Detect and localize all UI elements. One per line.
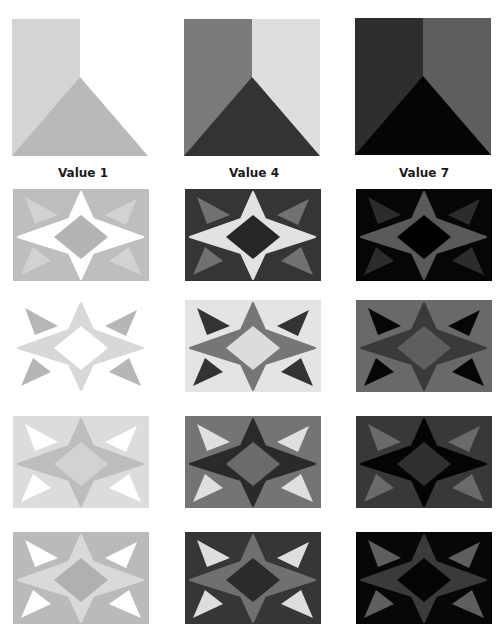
star-panel-r4-value-1	[13, 532, 149, 624]
value-square-1-svg	[12, 19, 148, 156]
value-label-7: Value 7	[354, 166, 494, 180]
star-panel-r4-value-7	[356, 532, 492, 624]
value-label-1: Value 1	[13, 166, 153, 180]
star-panel-svg	[356, 189, 492, 281]
value-square-7-svg	[355, 18, 491, 155]
star-panel-svg	[13, 416, 149, 508]
value-square-4	[184, 19, 320, 156]
star-panel-svg	[356, 532, 492, 624]
star-panel-r1-value-4	[185, 189, 321, 281]
value-square-1	[12, 19, 148, 156]
value-label-4: Value 4	[184, 166, 324, 180]
value-square-4-svg	[184, 19, 320, 156]
star-panel-svg	[356, 416, 492, 508]
star-panel-svg	[13, 189, 149, 281]
star-panel-r3-value-4	[185, 416, 321, 508]
star-panel-svg	[13, 532, 149, 624]
star-panel-r4-value-4	[185, 532, 321, 624]
star-panel-r2-value-4	[185, 300, 321, 392]
star-panel-r3-value-7	[356, 416, 492, 508]
star-panel-r1-value-1	[13, 189, 149, 281]
star-panel-svg	[185, 189, 321, 281]
star-panel-svg	[185, 532, 321, 624]
star-panel-svg	[185, 300, 321, 392]
star-panel-svg	[185, 416, 321, 508]
star-panel-svg	[13, 300, 149, 392]
star-panel-r2-value-1	[13, 300, 149, 392]
star-panel-r3-value-1	[13, 416, 149, 508]
star-panel-r1-value-7	[356, 189, 492, 281]
star-panel-svg	[356, 300, 492, 392]
star-panel-r2-value-7	[356, 300, 492, 392]
value-square-7	[355, 18, 491, 155]
